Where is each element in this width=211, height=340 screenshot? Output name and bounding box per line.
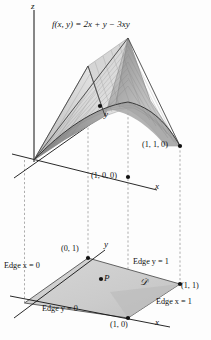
upper-x-axis-line — [12, 154, 157, 190]
lower-y-axis-label: y — [104, 240, 108, 249]
label-point-p: P — [104, 274, 110, 283]
upper-y-axis-label: y — [104, 110, 108, 119]
label-edge-y-1: Edge y = 1 — [133, 258, 169, 266]
figure-canvas — [0, 0, 211, 340]
lower-x-axis-label: x — [155, 318, 159, 327]
label-edge-x-0: Edge x = 0 — [4, 262, 40, 270]
axis-marker-1-0-0 — [126, 175, 130, 179]
label-vertex-1-1: (1, 1) — [181, 282, 199, 290]
label-vertex-0-1: (0, 1) — [61, 245, 79, 253]
label-domain-d: 𝒟 — [140, 278, 148, 288]
math-figure: z f(x, y) = 2x + y − 3xy y x (1, 1, 0) (… — [0, 0, 211, 340]
domain-point-p — [99, 277, 103, 281]
z-axis-label: z — [31, 2, 35, 11]
label-edge-y-0: Edge y = 0 — [42, 305, 78, 313]
label-vertex-1-0: (1, 0) — [110, 321, 128, 329]
upper-x-axis-label: x — [155, 182, 159, 191]
function-formula: f(x, y) = 2x + y − 3xy — [52, 20, 130, 29]
surface-point-1-1-0 — [178, 144, 182, 148]
domain-vertex-0-1 — [86, 256, 90, 260]
surface-point-above-p — [98, 104, 102, 108]
label-edge-x-1: Edge x = 1 — [156, 298, 192, 306]
label-point-1-0-0: (1, 0, 0) — [91, 172, 117, 180]
label-point-1-1-0: (1, 1, 0) — [142, 141, 168, 149]
